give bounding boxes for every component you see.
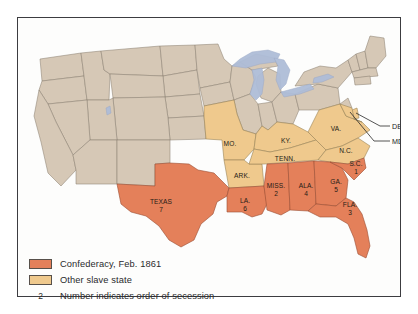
label-georgia: GA. xyxy=(330,178,342,185)
map-figure: TEXAS 7 LA. 6 MISS. 2 ALA. 4 GA. 5 S.C. … xyxy=(0,0,418,314)
united-states-map: TEXAS 7 LA. 6 MISS. 2 ALA. 4 GA. 5 S.C. … xyxy=(18,18,400,296)
label-louisiana: LA. xyxy=(240,197,250,204)
state-new-york xyxy=(295,60,352,88)
state-florida xyxy=(308,198,370,258)
label-south-carolina: S.C. xyxy=(349,160,362,167)
state-mississippi xyxy=(264,163,290,215)
order-south-carolina: 1 xyxy=(354,168,358,175)
label-kentucky: KY. xyxy=(281,137,291,144)
label-north-carolina: N.C. xyxy=(339,147,353,154)
legend-label-other-slave-state: Other slave state xyxy=(60,275,132,285)
label-texas: TEXAS xyxy=(150,198,173,205)
state-colorado xyxy=(113,97,170,140)
order-louisiana: 6 xyxy=(243,205,247,212)
state-nebraska xyxy=(165,94,204,118)
legend-label-confederacy: Confederacy, Feb. 1861 xyxy=(60,259,161,269)
state-kansas xyxy=(168,116,206,140)
legend-swatch-confederacy xyxy=(29,259,52,269)
legend-item-confederacy: Confederacy, Feb. 1861 xyxy=(29,256,329,271)
label-maryland: MD. xyxy=(392,137,400,146)
label-delaware: DEL. xyxy=(392,122,400,131)
legend-item-other-slave-state: Other slave state xyxy=(29,272,329,287)
state-montana xyxy=(101,46,163,76)
callout-labels: DEL. MD. xyxy=(392,122,400,146)
label-alabama: ALA. xyxy=(299,182,314,189)
label-arkansas: ARK. xyxy=(234,172,250,179)
state-utah xyxy=(87,98,117,140)
order-florida: 3 xyxy=(348,209,352,216)
legend-item-secession-order: 2 Number indicates order of secession xyxy=(29,288,329,303)
order-texas: 7 xyxy=(159,206,163,213)
label-missouri: MO. xyxy=(224,140,237,147)
order-mississippi: 2 xyxy=(274,190,278,197)
state-maine xyxy=(365,36,386,68)
order-alabama: 4 xyxy=(304,190,308,197)
label-virginia: VA. xyxy=(331,125,342,132)
legend-label-secession-order: Number indicates order of secession xyxy=(60,291,214,301)
label-mississippi: MISS. xyxy=(267,182,286,189)
order-georgia: 5 xyxy=(334,186,338,193)
state-wyoming xyxy=(110,74,165,98)
legend-example-number: 2 xyxy=(29,291,52,301)
state-minnesota xyxy=(195,44,232,88)
map-legend: Confederacy, Feb. 1861 Other slave state… xyxy=(29,256,329,304)
label-tennessee: TENN. xyxy=(275,155,295,162)
legend-swatch-other-slave-state xyxy=(29,275,52,285)
label-florida: FLA. xyxy=(343,201,357,208)
great-salt-lake xyxy=(106,106,111,115)
map-canvas: TEXAS 7 LA. 6 MISS. 2 ALA. 4 GA. 5 S.C. … xyxy=(18,18,400,296)
